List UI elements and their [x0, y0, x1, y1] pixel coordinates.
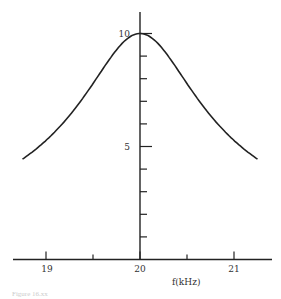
x-tick-label-21: 21 — [228, 264, 239, 274]
y-tick-label-10: 10 — [119, 29, 131, 39]
x-tick-label-19: 19 — [41, 264, 53, 274]
figure-caption: Figure 16.xx — [12, 290, 48, 298]
resonance-chart: 10 5 19 20 21 f(kHz) — [0, 0, 281, 299]
y-tick-label-5: 5 — [124, 142, 130, 152]
x-tick-label-20: 20 — [134, 264, 146, 274]
x-axis-label: f(kHz) — [172, 277, 200, 287]
